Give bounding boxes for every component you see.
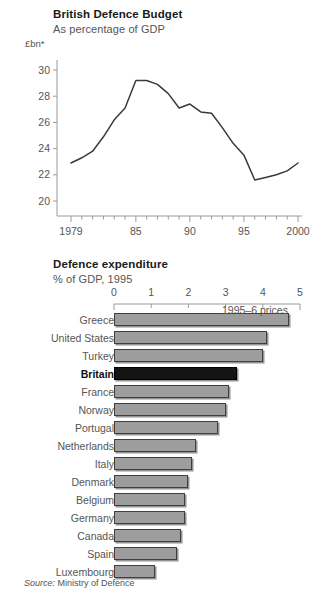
bar-row-label: Portugal bbox=[75, 422, 114, 434]
bar-rect bbox=[114, 385, 229, 398]
bar-row-label: Luxembourg bbox=[56, 566, 114, 578]
line-chart-plot: 20222426283019798590952000 bbox=[0, 34, 321, 254]
source-note: Source: Ministry of Defence bbox=[24, 578, 135, 588]
bar-rect bbox=[114, 529, 181, 542]
bar-row-label: Spain bbox=[87, 548, 114, 560]
bar-row-label: Turkey bbox=[82, 350, 114, 362]
bar-rect bbox=[114, 511, 185, 524]
bar-row-label: Germany bbox=[71, 512, 114, 524]
bar-row[interactable]: Italy bbox=[0, 456, 321, 474]
y-tick-label: 24 bbox=[38, 142, 50, 154]
bar-row[interactable]: Britain bbox=[0, 366, 321, 384]
line-chart-series bbox=[71, 80, 298, 180]
x-tick-label: 1979 bbox=[59, 225, 83, 237]
bar-rect bbox=[114, 457, 192, 470]
y-tick-label: 22 bbox=[38, 168, 50, 180]
bar-axis-tick-label: 2 bbox=[185, 286, 191, 298]
bar-row-label: Britain bbox=[81, 368, 114, 380]
bar-row-label: Denmark bbox=[71, 476, 114, 488]
bar-row-label: Greece bbox=[80, 314, 114, 326]
bar-axis-tick-label: 0 bbox=[111, 286, 117, 298]
source-prefix: Source: bbox=[24, 578, 55, 588]
bar-rect bbox=[114, 331, 267, 344]
bar-rect bbox=[114, 439, 196, 452]
bar-chart-rows: GreeceUnited StatesTurkeyBritainFranceNo… bbox=[0, 312, 321, 582]
bar-chart-title: Defence expenditure bbox=[53, 258, 168, 270]
bar-row-label: Italy bbox=[95, 458, 114, 470]
bar-row-label: Canada bbox=[77, 530, 114, 542]
bar-axis-tick-label: 4 bbox=[260, 286, 266, 298]
x-tick-label: 85 bbox=[130, 225, 142, 237]
bar-row-label: Belgium bbox=[76, 494, 114, 506]
bar-row[interactable]: Germany bbox=[0, 510, 321, 528]
bar-rect bbox=[114, 421, 218, 434]
x-tick-label: 2000 bbox=[286, 225, 310, 237]
line-chart-title: British Defence Budget bbox=[53, 8, 182, 20]
prices-note: 1995–6 prices bbox=[222, 304, 288, 316]
bar-row[interactable]: France bbox=[0, 384, 321, 402]
bar-row[interactable]: Canada bbox=[0, 528, 321, 546]
bar-row[interactable]: Belgium bbox=[0, 492, 321, 510]
bar-row[interactable]: Norway bbox=[0, 402, 321, 420]
bar-axis-tick-label: 1 bbox=[148, 286, 154, 298]
x-tick-label: 95 bbox=[238, 225, 250, 237]
bar-rect bbox=[114, 493, 185, 506]
bar-row[interactable]: Denmark bbox=[0, 474, 321, 492]
source-text: Ministry of Defence bbox=[58, 578, 135, 588]
y-tick-label: 20 bbox=[38, 195, 50, 207]
bar-row-label: Netherlands bbox=[57, 440, 114, 452]
bar-row[interactable]: Netherlands bbox=[0, 438, 321, 456]
x-tick-label: 90 bbox=[184, 225, 196, 237]
y-tick-label: 26 bbox=[38, 116, 50, 128]
bar-rect bbox=[114, 475, 188, 488]
bar-row-label: Norway bbox=[78, 404, 114, 416]
y-tick-label: 28 bbox=[38, 90, 50, 102]
y-tick-label: 30 bbox=[38, 64, 50, 76]
bar-chart-subtitle: % of GDP, 1995 bbox=[53, 273, 132, 285]
bar-rect bbox=[114, 367, 237, 380]
bar-row-label: United States bbox=[51, 332, 114, 344]
bar-row-label: France bbox=[81, 386, 114, 398]
bar-rect bbox=[114, 349, 263, 362]
bar-row[interactable]: Portugal bbox=[0, 420, 321, 438]
bar-rect bbox=[114, 565, 155, 578]
bar-row[interactable]: Spain bbox=[0, 546, 321, 564]
bar-row[interactable]: United States bbox=[0, 330, 321, 348]
bar-axis-tick-label: 3 bbox=[223, 286, 229, 298]
bar-rect bbox=[114, 547, 177, 560]
bar-row[interactable]: Turkey bbox=[0, 348, 321, 366]
bar-rect bbox=[114, 403, 226, 416]
bar-axis-tick-label: 5 bbox=[297, 286, 303, 298]
